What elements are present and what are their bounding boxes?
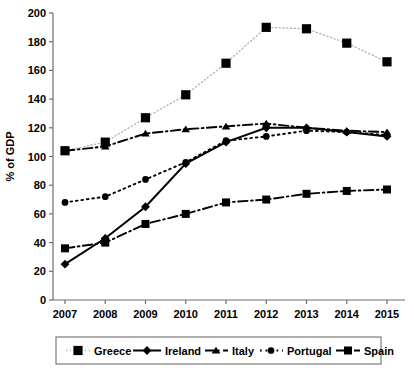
legend-item-italy: Italy <box>205 345 255 357</box>
series-spain <box>61 186 391 253</box>
marker-circle <box>142 176 149 183</box>
public-debt-line-chart: 020406080100120140160180200% of GDP20072… <box>0 0 414 378</box>
x-tick-label: 2014 <box>335 308 360 320</box>
marker-circle <box>62 199 69 206</box>
x-tick-label: 2007 <box>53 308 77 320</box>
x-tick-label: 2008 <box>93 308 117 320</box>
y-tick-label: 100 <box>28 151 46 163</box>
x-tick-label: 2013 <box>294 308 318 320</box>
marker-square <box>142 220 150 228</box>
legend-item-spain: Spain <box>336 345 394 357</box>
marker-circle <box>384 132 391 139</box>
y-tick-label: 0 <box>40 294 46 306</box>
marker-square <box>182 210 190 218</box>
marker-square <box>221 59 230 68</box>
series-portugal <box>62 127 391 205</box>
marker-circle <box>268 347 275 354</box>
x-tick-label: 2009 <box>133 308 157 320</box>
marker-square <box>262 23 271 32</box>
legend-label: Italy <box>232 345 255 357</box>
legend-label: Greece <box>94 345 131 357</box>
y-tick-label: 60 <box>34 208 46 220</box>
chart-legend: GreeceIrelandItalyPortugalSpain <box>56 337 394 364</box>
marker-square <box>73 346 82 355</box>
x-tick-label: 2015 <box>375 308 399 320</box>
x-tick-label: 2010 <box>174 308 198 320</box>
marker-circle <box>263 133 270 140</box>
marker-square <box>141 113 150 122</box>
y-tick-label: 200 <box>28 7 46 19</box>
marker-square <box>343 187 351 195</box>
legend-item-ireland: Ireland <box>133 345 201 357</box>
marker-square <box>383 186 391 194</box>
y-axis-ticks: 020406080100120140160180200 <box>28 7 53 306</box>
y-tick-label: 180 <box>28 36 46 48</box>
marker-circle <box>102 193 109 200</box>
legend-label: Ireland <box>165 345 201 357</box>
marker-circle <box>303 127 310 134</box>
marker-circle <box>182 159 189 166</box>
y-axis-title: % of GDP <box>4 131 16 181</box>
marker-diamond <box>143 346 152 355</box>
x-tick-label: 2011 <box>214 308 238 320</box>
x-tick-label: 2012 <box>254 308 278 320</box>
series-line <box>65 190 387 249</box>
marker-circle <box>343 129 350 136</box>
marker-circle <box>223 137 230 144</box>
marker-square <box>303 190 311 198</box>
x-axis-ticks: 200720082009201020112012201320142015 <box>53 300 399 320</box>
y-tick-label: 140 <box>28 93 46 105</box>
y-tick-label: 120 <box>28 122 46 134</box>
marker-square <box>222 198 230 206</box>
legend-label: Spain <box>364 345 394 357</box>
marker-square <box>181 90 190 99</box>
series-italy <box>61 120 392 154</box>
marker-square <box>302 24 311 33</box>
chart-figure: 020406080100120140160180200% of GDP20072… <box>0 0 414 378</box>
legend-item-portugal: Portugal <box>260 345 332 357</box>
y-tick-label: 40 <box>34 237 46 249</box>
marker-square <box>342 39 351 48</box>
legend-label: Portugal <box>287 345 332 357</box>
legend-item-greece: Greece <box>66 345 131 357</box>
y-tick-label: 20 <box>34 265 46 277</box>
y-tick-label: 160 <box>28 64 46 76</box>
series-greece <box>60 23 391 156</box>
marker-square <box>382 57 391 66</box>
series-line <box>65 128 387 264</box>
axes <box>53 13 405 300</box>
y-tick-label: 80 <box>34 179 46 191</box>
marker-square <box>101 239 109 247</box>
marker-square <box>61 244 69 252</box>
marker-square <box>262 196 270 204</box>
marker-square <box>344 347 352 355</box>
